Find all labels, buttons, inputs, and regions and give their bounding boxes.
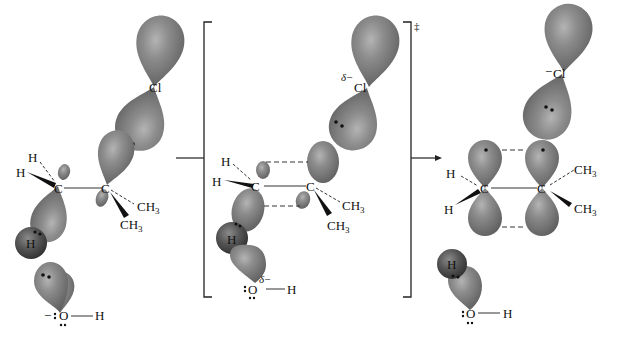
products: − Cl C C H H CH3 CH3 H O: [437, 1, 597, 324]
product-atom-ch3-wedge: CH3: [574, 201, 597, 218]
ts-atom-ch3-dash: CH3: [342, 198, 365, 215]
product-atom-c2: C: [537, 181, 546, 196]
atom-c1: C: [54, 181, 63, 196]
double-dagger: ‡: [414, 20, 420, 32]
ts-o-partial-charge: δ−: [259, 273, 272, 285]
transition-state: ‡ H δ− Cl: [204, 12, 442, 299]
atom-ch3-wedge: CH3: [120, 217, 143, 234]
product-cl-charge: −: [545, 64, 552, 79]
atom-h-wedge: H: [16, 165, 25, 180]
atom-cl: Cl: [149, 80, 162, 95]
atom-h-top: H: [28, 150, 37, 165]
ts-cl-partial-charge: δ−: [341, 71, 354, 83]
product-atom-oxygen: O: [466, 306, 475, 321]
product-atom-ch3-top: CH3: [574, 162, 597, 179]
product-atom-cl: Cl: [553, 66, 566, 81]
ts-atom-h-sphere: H: [227, 232, 236, 247]
reactant: H Cl C C H H CH3 CH3 − O H: [15, 12, 188, 326]
atom-oxygen: O: [59, 308, 68, 323]
atom-c2: C: [101, 181, 110, 196]
ts-atom-c1: C: [251, 179, 260, 194]
atom-ch3-dash: CH3: [137, 199, 160, 216]
atom-h-sphere: H: [26, 236, 35, 251]
product-atom-h-top: H: [446, 166, 455, 181]
cl-orbital-upper: [130, 12, 188, 90]
e2-mechanism-diagram: H Cl C C H H CH3 CH3 − O H ‡: [0, 0, 622, 338]
bracket-left: [204, 22, 212, 297]
ts-atom-c2: C: [306, 179, 315, 194]
ts-atom-oxygen: O: [248, 282, 257, 297]
atom-oxygen-charge: −: [44, 308, 51, 323]
product-atom-oh-h: H: [503, 306, 512, 321]
reaction-arrow-2: [435, 155, 442, 161]
ts-atom-oh-h: H: [287, 282, 296, 297]
product-atom-c1: C: [480, 181, 489, 196]
product-atom-h-sphere: H: [447, 257, 456, 272]
bracket-right: [403, 22, 411, 297]
ts-atom-ch3-wedge: CH3: [327, 218, 350, 235]
ts-atom-h-top: H: [221, 154, 230, 169]
product-atom-h-wedge: H: [444, 202, 453, 217]
atom-oh-h: H: [95, 308, 104, 323]
ts-atom-cl: Cl: [354, 80, 367, 95]
ts-atom-h-wedge: H: [212, 174, 221, 189]
